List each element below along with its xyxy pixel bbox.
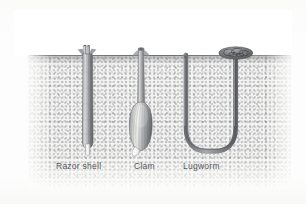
lugworm-head-shaft-opening [182, 53, 186, 56]
razor-siphon-tip-a [83, 45, 86, 46]
clam-shell-highlight [133, 105, 148, 128]
razor-shell-illustration [78, 45, 97, 156]
illustration-figure: Razor shell Clam Lugworm [0, 0, 306, 204]
razor-shell-body [82, 54, 93, 147]
organism-illustrations [14, 10, 292, 190]
lugworm-cast [219, 47, 253, 59]
razor-siphon-tip-b [87, 45, 90, 46]
lugworm-illustration [182, 47, 253, 152]
lugworm-cast-shadow [221, 55, 251, 59]
razor-shell-foot [86, 144, 90, 156]
illustration-plate [14, 10, 292, 190]
clam-illustration [129, 47, 152, 156]
lugworm-burrow-lining [186, 56, 236, 150]
lugworm-burrow [186, 55, 236, 151]
clam-siphon-tube [138, 51, 145, 107]
clam-siphon-aperture [140, 48, 143, 50]
